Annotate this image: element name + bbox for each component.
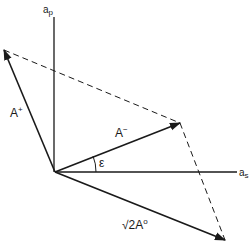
dashed-line-aminus-to-a0: [180, 123, 225, 240]
vector-a-minus-label: A−: [115, 126, 128, 139]
horizontal-axis-label: as: [239, 168, 249, 180]
vector-sqrt2-a0-label: √2Ao: [122, 218, 148, 231]
angle-epsilon-arc: [93, 156, 96, 172]
label-base: A: [10, 106, 18, 120]
axis-label-sub: s: [245, 171, 249, 180]
label-sup: o: [143, 217, 147, 226]
label-prefix: √2: [122, 218, 135, 232]
axis-label-sub: p: [49, 8, 53, 17]
label-sup: +: [18, 105, 23, 114]
label-base: A: [115, 126, 123, 140]
label-sup: −: [123, 125, 128, 134]
angle-epsilon-label: ε: [99, 157, 104, 169]
vector-a-plus-label: A+: [10, 106, 23, 119]
vertical-axis-label: ap: [43, 5, 53, 17]
